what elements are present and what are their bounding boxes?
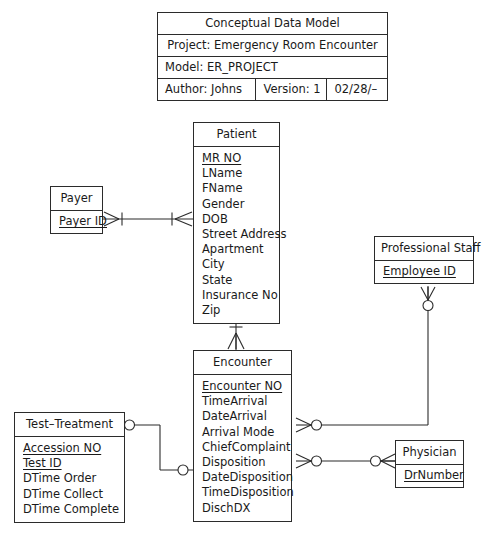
entity-physician-attributes: DrNumber bbox=[396, 465, 463, 487]
title-block: Conceptual Data Model Project: Emergency… bbox=[157, 12, 388, 101]
connector-payer-patient bbox=[103, 212, 193, 226]
entity-encounter-attributes: Encounter NO TimeArrival DateArrival Arr… bbox=[194, 375, 291, 521]
attribute: Encounter NO bbox=[194, 379, 291, 394]
attribute: State bbox=[194, 273, 279, 288]
attribute: Payer ID bbox=[51, 214, 102, 229]
title-block-row-title: Conceptual Data Model bbox=[158, 13, 387, 35]
entity-payer-title: Payer bbox=[51, 187, 102, 211]
entity-payer-attributes: Payer ID bbox=[51, 211, 102, 233]
model-title: Conceptual Data Model bbox=[158, 13, 387, 34]
title-block-row-meta: Author: Johns Version: 1 02/28/– bbox=[158, 79, 387, 100]
title-block-row-model: Model: ER_PROJECT bbox=[158, 57, 387, 79]
attribute: Insurance No bbox=[194, 288, 279, 303]
attribute: Disposition bbox=[194, 455, 291, 470]
entity-professional-staff-attributes: Employee ID bbox=[375, 261, 473, 283]
attribute: LName bbox=[194, 166, 279, 181]
attribute: City bbox=[194, 257, 279, 272]
entity-test-treatment-title: Test–Treatment bbox=[15, 413, 124, 437]
attribute: DTime Complete bbox=[15, 502, 124, 517]
entity-encounter-title: Encounter bbox=[194, 351, 291, 375]
author-name: Author: Johns bbox=[158, 79, 256, 100]
revision-date: 02/28/– bbox=[327, 79, 387, 100]
attribute: DTime Order bbox=[15, 471, 124, 486]
attribute: Accession NO bbox=[15, 441, 124, 456]
entity-patient-title: Patient bbox=[194, 123, 279, 147]
attribute: DOB bbox=[194, 212, 279, 227]
title-block-row-project: Project: Emergency Room Encounter bbox=[158, 35, 387, 57]
entity-test-treatment[interactable]: Test–Treatment Accession NO Test ID DTim… bbox=[14, 412, 125, 523]
entity-patient[interactable]: Patient MR NO LName FName Gender DOB Str… bbox=[193, 122, 280, 324]
attribute: MR NO bbox=[194, 151, 279, 166]
attribute: Apartment bbox=[194, 242, 279, 257]
model-name: Model: ER_PROJECT bbox=[158, 57, 387, 78]
attribute: DateArrival bbox=[194, 409, 291, 424]
entity-patient-attributes: MR NO LName FName Gender DOB Street Addr… bbox=[194, 147, 279, 323]
attribute: FName bbox=[194, 181, 279, 196]
entity-payer[interactable]: Payer Payer ID bbox=[50, 186, 103, 234]
attribute: DateDisposition bbox=[194, 470, 291, 485]
entity-test-treatment-attributes: Accession NO Test ID DTime Order DTime C… bbox=[15, 437, 124, 522]
version-number: Version: 1 bbox=[256, 79, 327, 100]
connector-encounter-physician bbox=[296, 454, 395, 468]
project-name: Project: Emergency Room Encounter bbox=[158, 35, 387, 56]
attribute: ChiefComplaint bbox=[194, 440, 291, 455]
attribute: Test ID bbox=[15, 456, 124, 471]
entity-encounter[interactable]: Encounter Encounter NO TimeArrival DateA… bbox=[193, 350, 292, 522]
attribute: DischDX bbox=[194, 501, 291, 516]
attribute: Street Address bbox=[194, 227, 279, 242]
attribute: DTime Collect bbox=[15, 487, 124, 502]
entity-professional-staff-title: Professional Staff bbox=[375, 237, 473, 261]
attribute: Zip bbox=[194, 303, 279, 318]
connector-staff-encounter bbox=[296, 286, 435, 432]
attribute: TimeArrival bbox=[194, 394, 291, 409]
entity-physician-title: Physician bbox=[396, 441, 463, 465]
entity-physician[interactable]: Physician DrNumber bbox=[395, 440, 464, 488]
attribute: TimeDisposition bbox=[194, 485, 291, 500]
attribute: DrNumber bbox=[396, 468, 463, 483]
er-diagram-canvas: Conceptual Data Model Project: Emergency… bbox=[0, 0, 500, 543]
entity-professional-staff[interactable]: Professional Staff Employee ID bbox=[374, 236, 474, 284]
attribute: Employee ID bbox=[375, 264, 473, 279]
attribute: Gender bbox=[194, 197, 279, 212]
attribute: Arrival Mode bbox=[194, 425, 291, 440]
